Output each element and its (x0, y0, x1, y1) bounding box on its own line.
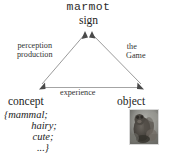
marmot-photo-image (129, 109, 159, 145)
sign-word-label: marmot (0, 1, 177, 13)
sign-role-label: sign (0, 14, 177, 26)
edge-label-left: perception production (17, 42, 52, 59)
concept-feature-item: {mammal; (2, 109, 80, 120)
edge-label-right: the Game (118, 43, 146, 60)
concept-feature-list: {mammal; hairy; cute; ...} (2, 109, 80, 153)
concept-node-label: concept (8, 95, 44, 107)
concept-feature-item: cute; (2, 131, 80, 142)
edge-label-bottom: experience (60, 89, 95, 98)
object-node-label: object (117, 95, 145, 107)
concept-feature-item: ...} (2, 142, 80, 153)
edge-label-left-line2: production (17, 51, 52, 60)
arrowhead-apex-right (89, 31, 96, 39)
concept-feature-item: hairy; (2, 120, 80, 131)
arrowhead-apex-left (82, 31, 89, 39)
semiotic-triangle-diagram: marmot sign perception production the Ga… (0, 0, 177, 168)
edge-label-right-line2: Game (126, 52, 146, 61)
